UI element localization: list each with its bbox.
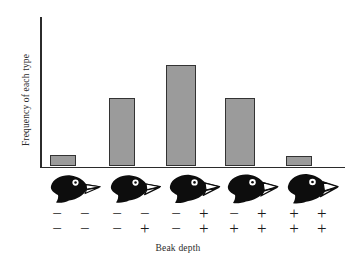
genotype-bottom-row: − +	[104, 221, 158, 236]
finch-head-icon	[45, 174, 103, 204]
bar-genotype-1	[50, 155, 76, 167]
bar-genotype-2	[109, 98, 135, 167]
genotype-label-1: − − − −	[44, 206, 98, 236]
bar-genotype-5	[286, 156, 312, 166]
finch-head-icon	[282, 174, 340, 204]
finch-head-icon	[105, 174, 163, 204]
y-axis-label: Frequency of each type	[17, 25, 35, 175]
beak-depth-frequency-chart: Frequency of each type	[0, 0, 356, 271]
genotype-bottom-row: − +	[163, 221, 217, 236]
x-axis-line	[40, 167, 345, 169]
y-axis-line	[40, 17, 42, 168]
genotype-label-2: − − − +	[104, 206, 158, 236]
genotype-bottom-row: − −	[44, 221, 98, 236]
genotype-label-3: − + − +	[163, 206, 217, 236]
finch-head-icon	[164, 174, 222, 204]
bar-genotype-3	[166, 65, 196, 167]
finch-head-icon	[222, 174, 280, 204]
bar-genotype-4	[225, 98, 255, 167]
genotype-bottom-row: + +	[221, 221, 275, 236]
genotype-label-5: + + + +	[281, 206, 335, 236]
x-axis-label: Beak depth	[0, 243, 356, 253]
genotype-bottom-row: + +	[281, 221, 335, 236]
genotype-label-4: − + + +	[221, 206, 275, 236]
